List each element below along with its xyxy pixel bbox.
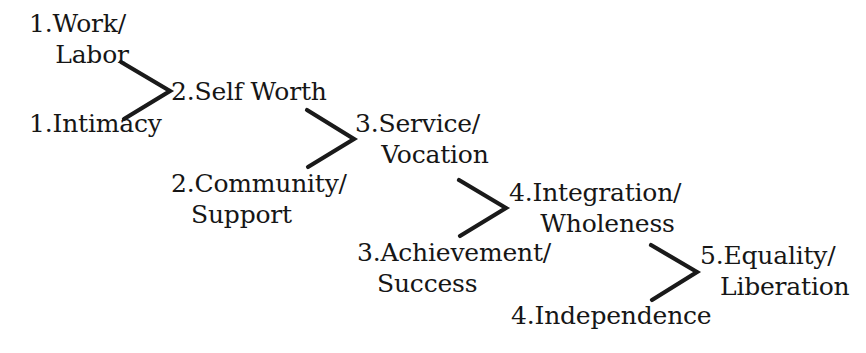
- node-self-worth-line-1: 2.Self Worth: [171, 76, 327, 107]
- node-integration-wholeness-line-2: Wholeness: [509, 208, 681, 239]
- chevron-merge-to-integration-wholeness: [459, 180, 506, 236]
- node-achievement-success-line-2: Success: [357, 268, 551, 299]
- node-equality-liberation: 5.Equality/ Liberation: [700, 240, 849, 302]
- node-independence-line-1: 4.Independence: [511, 300, 711, 331]
- node-work-labor-line-1: 1.Work/: [29, 8, 129, 39]
- node-integration-wholeness: 4.Integration/ Wholeness: [509, 177, 681, 239]
- node-work-labor: 1.Work/ Labor: [29, 8, 129, 70]
- node-intimacy: 1.Intimacy: [29, 108, 162, 139]
- node-service-vocation-line-2: Vocation: [355, 139, 489, 170]
- node-integration-wholeness-line-1: 4.Integration/: [509, 177, 681, 208]
- node-independence: 4.Independence: [511, 300, 711, 331]
- node-community-support-line-2: Support: [171, 199, 347, 230]
- node-community-support: 2.Community/ Support: [171, 168, 347, 230]
- node-equality-liberation-line-2: Liberation: [700, 271, 849, 302]
- node-intimacy-line-1: 1.Intimacy: [29, 108, 162, 139]
- node-achievement-success: 3.Achievement/ Success: [357, 237, 551, 299]
- chevron-merge-to-service-vocation: [307, 110, 354, 167]
- diagram-canvas: 1.Work/ Labor 1.Intimacy 2.Self Worth 2.…: [0, 0, 866, 353]
- node-achievement-success-line-1: 3.Achievement/: [357, 237, 551, 268]
- node-equality-liberation-line-1: 5.Equality/: [700, 240, 849, 271]
- node-community-support-line-1: 2.Community/: [171, 168, 347, 199]
- node-service-vocation-line-1: 3.Service/: [355, 108, 489, 139]
- node-service-vocation: 3.Service/ Vocation: [355, 108, 489, 170]
- chevron-merge-to-equality-liberation: [651, 245, 697, 300]
- node-work-labor-line-2: Labor: [29, 39, 129, 70]
- node-self-worth: 2.Self Worth: [171, 76, 327, 107]
